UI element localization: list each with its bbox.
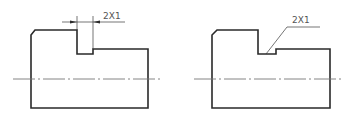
left-part-outline <box>31 30 148 108</box>
left-dimension-arrow-a <box>70 21 77 24</box>
left-dimension-arrow-b <box>93 21 100 24</box>
right-leader-line <box>266 27 320 54</box>
drawing-canvas: 2X1 2X1 <box>0 0 355 121</box>
right-view: 2X1 <box>194 15 344 108</box>
left-view: 2X1 <box>13 11 162 108</box>
left-groove-callout: 2X1 <box>103 11 121 21</box>
right-part-outline <box>212 30 330 108</box>
right-groove-callout: 2X1 <box>292 15 310 25</box>
